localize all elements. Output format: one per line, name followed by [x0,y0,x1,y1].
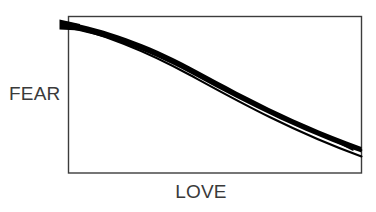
fear-love-figure: FEAR LOVE [0,0,376,212]
curve-lower [63,26,362,157]
x-axis-label: LOVE [0,182,376,201]
curve-origin-wedge [60,20,81,31]
y-axis-label: FEAR [9,84,60,103]
